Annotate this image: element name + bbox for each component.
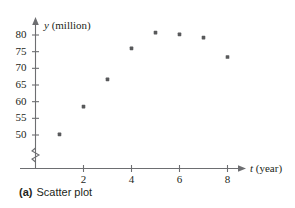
- x-axis-tick-label: 2: [74, 174, 94, 185]
- y-axis-tick-label: 50: [5, 129, 27, 140]
- y-axis-unit: (million): [52, 19, 91, 31]
- data-point: [82, 105, 86, 109]
- x-axis-tick-label: 6: [170, 174, 190, 185]
- x-axis: [20, 165, 246, 172]
- y-axis-tick-label: 65: [5, 79, 27, 90]
- x-axis-variable: t: [250, 162, 253, 174]
- y-axis: [32, 17, 39, 168]
- x-axis-title: t (year): [250, 163, 282, 174]
- y-axis-arrowhead: [32, 17, 39, 25]
- data-point: [154, 31, 158, 35]
- plot-area: 80757065605550 2468 y (million) t (year): [0, 0, 295, 180]
- y-axis-variable: y: [44, 19, 49, 31]
- x-axis-tick-label: 8: [218, 174, 238, 185]
- data-point: [58, 133, 62, 137]
- y-axis-tick-label: 55: [5, 112, 27, 123]
- y-axis-title: y (million): [44, 20, 91, 31]
- figure-caption-tag: (a): [19, 186, 32, 198]
- data-point: [106, 78, 110, 82]
- x-axis-unit: (year): [256, 162, 282, 174]
- data-point: [130, 47, 134, 51]
- scatter-plot-figure: 80757065605550 2468 y (million) t (year)…: [0, 0, 295, 208]
- data-point: [178, 33, 182, 37]
- data-point: [202, 36, 206, 40]
- y-axis-tick-label: 80: [5, 29, 27, 40]
- figure-caption: (a)Scatter plot: [19, 186, 92, 198]
- y-axis-tick-label: 70: [5, 62, 27, 73]
- x-axis-arrowhead: [238, 165, 246, 172]
- figure-caption-text: Scatter plot: [36, 186, 92, 198]
- data-point-series: [58, 31, 230, 136]
- y-axis-tick-label: 75: [5, 46, 27, 57]
- x-axis-tick-label: 4: [122, 174, 142, 185]
- data-point: [226, 55, 230, 59]
- y-axis-tick-label: 60: [5, 96, 27, 107]
